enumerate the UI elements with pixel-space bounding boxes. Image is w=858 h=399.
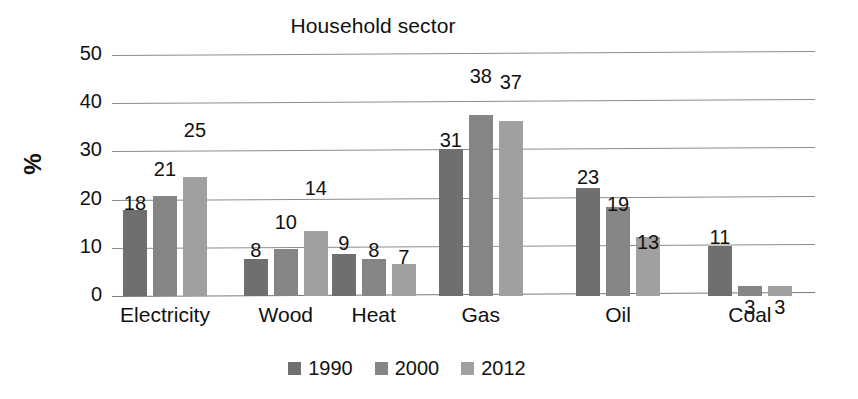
bar-value-label: 11	[698, 226, 742, 249]
x-axis-category-label: Electricity	[95, 303, 235, 327]
legend-item: 2000	[375, 357, 440, 380]
bar-value-label: 31	[429, 129, 473, 152]
legend-swatch-icon	[375, 362, 388, 375]
gridline	[112, 51, 815, 56]
y-axis-title: %	[19, 153, 47, 174]
gridline	[112, 99, 815, 104]
legend-label: 1990	[308, 357, 353, 380]
bar	[183, 177, 207, 296]
y-axis-tick: 50	[56, 42, 102, 65]
bar	[439, 149, 463, 296]
chart-legend: 199020002012	[0, 357, 836, 380]
chart-title: Household sector	[0, 14, 802, 38]
x-axis-category-label: Oil	[548, 303, 688, 327]
bar	[768, 286, 792, 296]
bar-value-label: 13	[626, 231, 670, 254]
plot-area: 182125810149873138372319131133	[112, 55, 815, 296]
legend-label: 2012	[481, 357, 526, 380]
bar-value-label: 19	[596, 193, 640, 216]
bar	[469, 115, 493, 296]
bar-chart: Household sector % 01020304050 182125810…	[0, 0, 858, 399]
bar	[274, 249, 298, 296]
bar	[738, 286, 762, 296]
bar	[708, 246, 732, 296]
bar-value-label: 18	[113, 192, 157, 215]
y-axis-tick: 30	[56, 138, 102, 161]
x-axis-category-label: Coal	[680, 303, 820, 327]
legend-swatch-icon	[461, 362, 474, 375]
legend-label: 2000	[395, 357, 440, 380]
legend-swatch-icon	[288, 362, 301, 375]
y-axis-tick: 40	[56, 90, 102, 113]
bar-value-label: 23	[566, 166, 610, 189]
bar-value-label: 37	[489, 71, 533, 94]
x-axis-category-labels: ElectricityWoodHeatGasOilCoal	[112, 303, 815, 335]
bar	[123, 210, 147, 296]
y-axis-tick: 20	[56, 187, 102, 210]
legend-item: 1990	[288, 357, 353, 380]
bar-value-label: 8	[234, 239, 278, 262]
bar	[499, 121, 523, 296]
bar-value-label: 25	[173, 119, 217, 142]
legend-item: 2012	[461, 357, 526, 380]
bar-value-label: 10	[264, 211, 308, 234]
y-axis-tick-labels: 01020304050	[46, 55, 102, 296]
bar-value-label: 21	[143, 158, 187, 181]
bar-value-label: 7	[382, 246, 426, 269]
bar	[244, 259, 268, 296]
y-axis-tick: 10	[56, 235, 102, 258]
bar	[153, 196, 177, 296]
bar-value-label: 14	[294, 177, 338, 200]
gridline	[112, 196, 815, 201]
x-axis-category-label: Gas	[411, 303, 551, 327]
